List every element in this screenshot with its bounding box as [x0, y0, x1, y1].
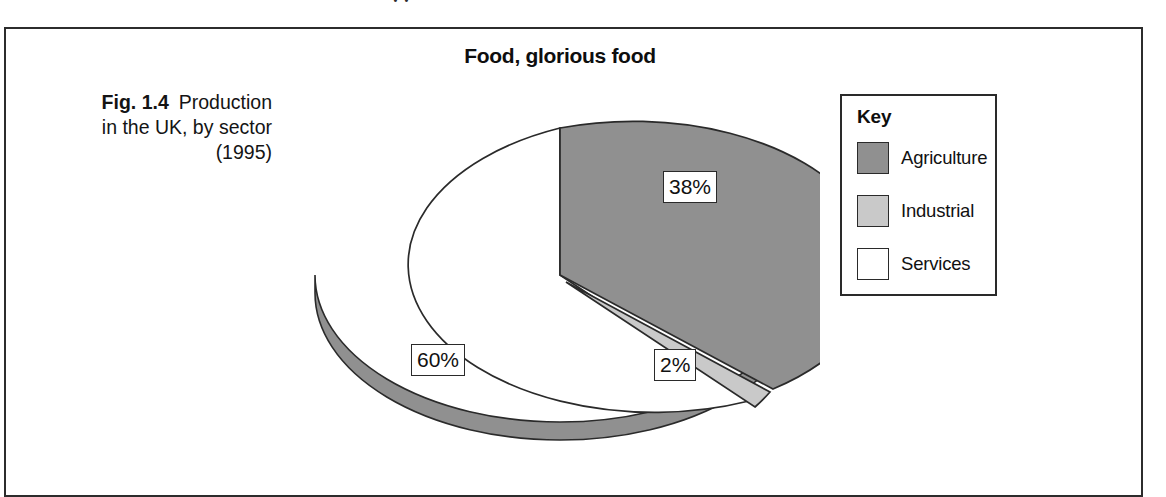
caption-line-3: (1995): [216, 141, 272, 163]
legend-item-agriculture: Agriculture: [857, 142, 987, 174]
legend-title: Key: [857, 106, 891, 128]
pie-chart: [300, 80, 820, 460]
scan-artifact-text: • •: [372, 0, 432, 6]
legend-item-industrial: Industrial: [857, 195, 974, 227]
pie-label-agriculture: 38%: [663, 171, 717, 203]
chart-title: Food, glorious food: [360, 44, 760, 68]
legend-label-agriculture: Agriculture: [901, 147, 987, 169]
legend-swatch-services: [857, 248, 889, 280]
pie-chart-svg: [300, 80, 820, 460]
pie-top-surface: [408, 121, 820, 412]
caption-line-2: in the UK, by sector: [102, 116, 272, 138]
legend: Key Agriculture Industrial Services: [840, 94, 997, 296]
pie-label-services: 60%: [411, 344, 465, 376]
figure-caption: Fig. 1.4Production in the UK, by sector …: [14, 90, 272, 165]
legend-swatch-agriculture: [857, 142, 889, 174]
caption-line-1: Production: [179, 91, 272, 113]
legend-item-services: Services: [857, 248, 970, 280]
legend-label-industrial: Industrial: [901, 200, 974, 222]
pie-label-industrial: 2%: [654, 349, 696, 381]
legend-label-services: Services: [901, 253, 970, 275]
figure-number: Fig. 1.4: [102, 91, 169, 113]
legend-swatch-industrial: [857, 195, 889, 227]
